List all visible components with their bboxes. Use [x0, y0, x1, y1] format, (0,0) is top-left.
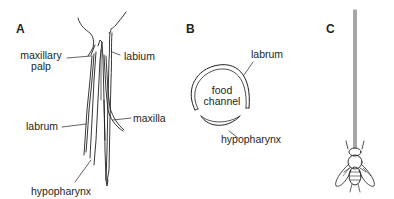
label-hypopharynx-b: hypopharynx: [221, 134, 281, 145]
label-hypopharynx-a: hypopharynx: [31, 186, 91, 197]
label-food-channel: food channel: [197, 85, 247, 107]
label-labrum-a: labrum: [26, 121, 58, 132]
panel-letter-c: C: [326, 23, 335, 35]
panel-c-drawing: [336, 10, 375, 192]
label-food-channel-line2: channel: [197, 96, 247, 107]
label-maxilla: maxilla: [133, 113, 166, 124]
panel-letter-a: A: [16, 23, 25, 35]
panel-a-drawing: [62, 12, 131, 186]
figure-canvas: A B C maxillary palp labium labrum maxil…: [0, 0, 394, 199]
panel-letter-b: B: [186, 23, 195, 35]
label-maxillary-palp-line2: palp: [15, 61, 67, 72]
label-labrum-b: labrum: [251, 49, 283, 60]
label-maxillary-palp: maxillary palp: [15, 50, 67, 72]
label-labium: labium: [124, 51, 155, 62]
